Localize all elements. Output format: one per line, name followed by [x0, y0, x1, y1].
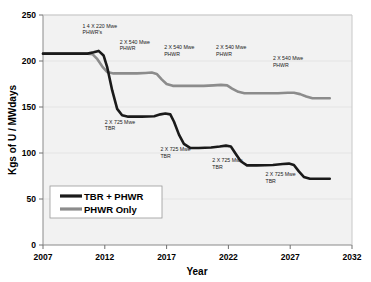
- annot-2x540-phwr-4-line1: 2 X 540 Mwe: [273, 55, 303, 61]
- annot-2x725-tbr-4-line2: TBR: [265, 178, 276, 184]
- annot-2x540-phwr-1-line2: PHWR: [120, 45, 136, 51]
- annot-2x540-phwr-4-line2: PHWR: [273, 62, 289, 68]
- annot-2x725-tbr-3-line1: 2 X 725 Mwe: [212, 157, 242, 163]
- y-tick-label: 200: [22, 56, 36, 66]
- y-tick-label: 50: [27, 194, 37, 204]
- y-axis-title: Kgs of U / MWdays: [7, 85, 18, 175]
- y-tick-label: 100: [22, 148, 36, 158]
- legend-label-1: PHWR Only: [84, 204, 137, 215]
- annot-2x540-phwr-1-line1: 2 X 540 Mwe: [120, 39, 150, 45]
- x-tick-label: 2007: [34, 252, 53, 262]
- x-tick-label: 2027: [281, 252, 300, 262]
- x-tick-label: 2032: [343, 252, 362, 262]
- annot-2x540-phwr-2-line1: 2 X 540 Mwe: [164, 44, 194, 50]
- chart-legend: TBR + PHWRPHWR Only: [50, 186, 162, 218]
- annot-2x725-tbr-1-line2: TBR: [105, 125, 116, 131]
- chart-container: 050100150200250 200720122017202220272032…: [0, 0, 371, 282]
- x-tick-label: 2022: [219, 252, 238, 262]
- annot-2x725-tbr-2-line2: TBR: [160, 153, 171, 159]
- legend-label-0: TBR + PHWR: [84, 191, 144, 202]
- annot-14x220-phwr-line1: 1 4 X 220 Mwe: [83, 23, 118, 29]
- y-tick-label: 0: [31, 240, 36, 250]
- chart-svg: 050100150200250 200720122017202220272032…: [0, 0, 371, 282]
- annot-2x540-phwr-2-line2: PHWR: [164, 51, 180, 57]
- annot-2x725-tbr-2-line1: 2 X 725 Mwe: [160, 146, 190, 152]
- y-tick-label: 150: [22, 102, 36, 112]
- annot-2x725-tbr-3-line2: TBR: [212, 164, 223, 170]
- x-tick-label: 2012: [95, 252, 114, 262]
- y-tick-label: 250: [22, 10, 36, 20]
- annot-14x220-phwr-line2: PHWR's: [83, 29, 103, 35]
- annot-2x540-phwr-3-line1: 2 X 540 Mwe: [216, 44, 246, 50]
- x-tick-label: 2017: [157, 252, 176, 262]
- annot-2x725-tbr-1-line1: 2 X 725 Mwe: [105, 119, 135, 125]
- annot-2x725-tbr-4-line1: 2 X 725 Mwe: [265, 171, 295, 177]
- x-axis-title: Year: [186, 266, 207, 277]
- annot-2x540-phwr-3-line2: PHWR: [216, 51, 232, 57]
